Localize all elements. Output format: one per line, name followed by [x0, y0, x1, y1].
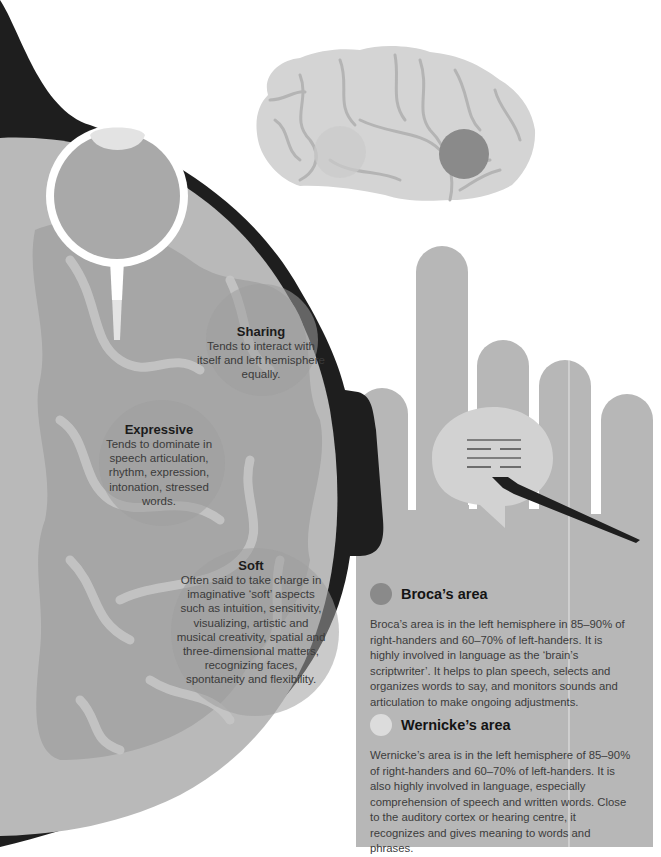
callout-soft: Soft Often said to take charge in imagin…: [176, 558, 326, 687]
wernicke-area-section: Wernicke’s area Wernicke’s area is in th…: [370, 714, 632, 857]
callout-sharing: Sharing Tends to interact with itself an…: [196, 324, 326, 382]
brain-side-view-illustration: [256, 46, 535, 201]
callout-sharing-title: Sharing: [196, 324, 326, 339]
callout-expressive: Expressive Tends to dominate in speech a…: [100, 422, 218, 508]
callout-soft-title: Soft: [176, 558, 326, 573]
broca-marker: [439, 129, 489, 179]
callout-soft-text: Often said to take charge in imaginative…: [177, 574, 326, 685]
broca-area-title: Broca’s area: [401, 586, 488, 602]
broca-area-heading: Broca’s area: [370, 583, 632, 605]
wernicke-area-heading: Wernicke’s area: [370, 714, 632, 736]
callout-sharing-text: Tends to interact with itself and left h…: [197, 340, 325, 380]
wernicke-marker: [314, 126, 366, 178]
broca-dot-icon: [370, 583, 392, 605]
callout-expressive-text: Tends to dominate in speech articulation…: [106, 438, 212, 507]
broca-area-description: Broca’s area is in the left hemisphere i…: [370, 617, 632, 710]
wernicke-dot-icon: [370, 714, 392, 736]
wernicke-area-description: Wernicke’s area is in the left hemispher…: [370, 748, 632, 857]
broca-area-section: Broca’s area Broca’s area is in the left…: [370, 583, 632, 710]
wernicke-area-title: Wernicke’s area: [401, 717, 511, 733]
callout-expressive-title: Expressive: [100, 422, 218, 437]
